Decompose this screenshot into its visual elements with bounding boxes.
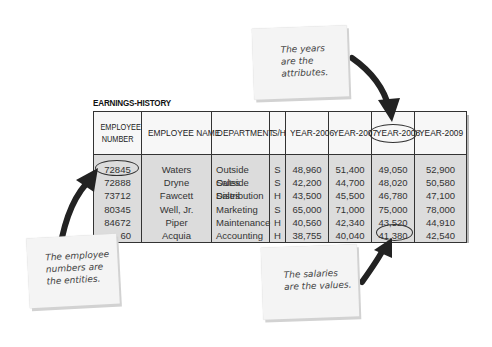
arrow-to-value bbox=[362, 248, 384, 282]
arrowhead-attribute bbox=[378, 98, 400, 122]
note-entities: The employee numbers are the entities. bbox=[26, 234, 120, 309]
note-text: the entities. bbox=[46, 272, 111, 287]
note-text: are the values. bbox=[284, 279, 352, 293]
note-text: The years bbox=[280, 42, 327, 56]
note-values: The salaries are the values. bbox=[261, 244, 359, 319]
note-text: attributes. bbox=[281, 66, 328, 80]
note-attributes: The years are the attributes. bbox=[252, 25, 349, 99]
